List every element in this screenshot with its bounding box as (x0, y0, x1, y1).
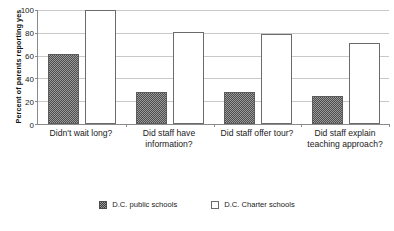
plot-area (37, 10, 389, 125)
bar-public-0[interactable] (48, 54, 79, 124)
category-label-2: Did staff offer tour? (213, 128, 301, 150)
category-separator (214, 124, 215, 127)
y-tick-label: 100 (21, 6, 34, 15)
category-label-1: Did staff have information? (125, 128, 213, 150)
y-tick-label: 0 (30, 121, 34, 130)
y-tick-label: 20 (25, 98, 34, 107)
category-separator (126, 124, 127, 127)
bar-public-1[interactable] (136, 92, 167, 124)
bar-public-2[interactable] (224, 92, 255, 124)
chart-legend: D.C. public schools D.C. Charter schools (0, 200, 394, 209)
bar-group (126, 10, 214, 124)
bar-public-3[interactable] (312, 96, 343, 125)
bar-groups (38, 10, 389, 124)
legend-label-charter: D.C. Charter schools (224, 200, 294, 209)
legend-swatch-public-icon (99, 201, 107, 209)
bar-charter-1[interactable] (173, 32, 204, 124)
category-label-3: Did staff explain teaching approach? (301, 128, 389, 150)
y-tickmark-0 (35, 124, 38, 125)
category-separator (301, 124, 302, 127)
y-tick-label: 40 (25, 75, 34, 84)
category-separator (389, 124, 390, 127)
legend-label-public: D.C. public schools (112, 200, 177, 209)
bar-charter-0[interactable] (85, 10, 116, 124)
bar-group (302, 10, 390, 124)
y-axis-tick-labels: 100 80 60 40 20 0 (14, 10, 34, 125)
bar-charter-3[interactable] (349, 43, 380, 124)
bar-chart: Percent of parents reporting yes 100 80 … (0, 0, 394, 231)
bar-group (38, 10, 126, 124)
bar-group (214, 10, 302, 124)
y-tick-label: 60 (25, 52, 34, 61)
y-tick-label: 80 (25, 29, 34, 38)
legend-swatch-charter-icon (211, 201, 219, 209)
category-label-0: Didn't wait long? (37, 128, 125, 150)
bar-charter-2[interactable] (261, 34, 292, 124)
legend-item-charter[interactable]: D.C. Charter schools (211, 200, 294, 209)
x-axis-category-labels: Didn't wait long? Did staff have informa… (37, 128, 389, 150)
legend-item-public[interactable]: D.C. public schools (99, 200, 177, 209)
